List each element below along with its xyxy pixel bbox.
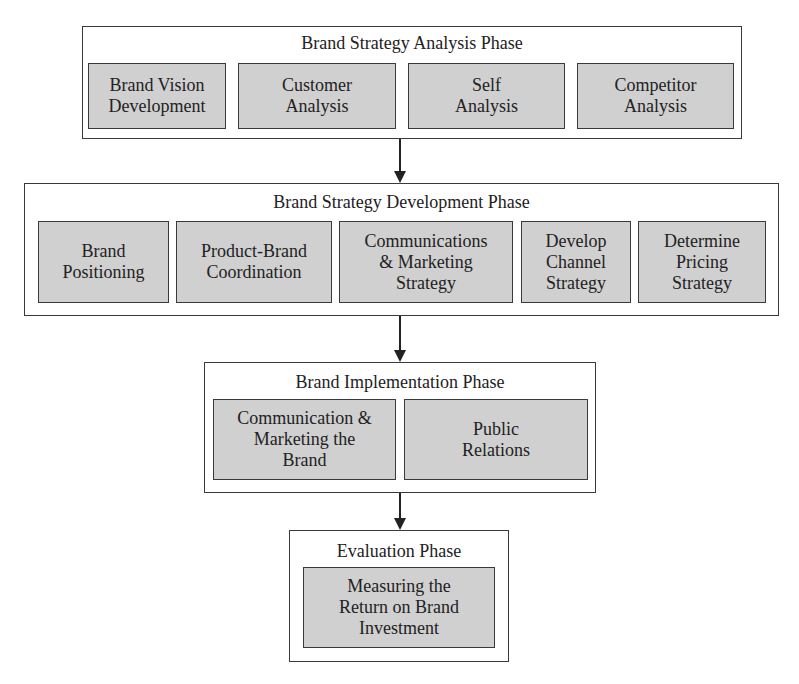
step-communications-marketing-strategy: Communications & Marketing Strategy [339, 221, 513, 303]
step-determine-pricing-strategy: Determine Pricing Strategy [638, 221, 766, 303]
phase-title: Evaluation Phase [290, 541, 508, 561]
step-product-brand-coordination: Product-Brand Coordination [176, 221, 332, 303]
step-brand-positioning: Brand Positioning [38, 221, 169, 303]
step-develop-channel-strategy: Develop Channel Strategy [521, 221, 631, 303]
phase-title: Brand Strategy Analysis Phase [83, 33, 741, 53]
step-public-relations: Public Relations [404, 399, 588, 480]
step-measuring-return-on-brand-investment: Measuring the Return on Brand Investment [303, 567, 495, 648]
phase-title: Brand Strategy Development Phase [25, 192, 778, 212]
step-competitor-analysis: Competitor Analysis [577, 63, 734, 129]
step-communication-marketing-the-brand: Communication & Marketing the Brand [213, 399, 396, 480]
step-self-analysis: Self Analysis [408, 63, 565, 129]
phase-title: Brand Implementation Phase [205, 372, 595, 392]
step-customer-analysis: Customer Analysis [238, 63, 396, 129]
step-brand-vision-development: Brand Vision Development [88, 63, 226, 129]
